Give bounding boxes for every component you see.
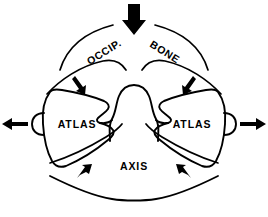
left-lateral-displacement-arrow	[2, 118, 28, 130]
atlas-right-label: ATLAS	[173, 118, 212, 130]
right-atlantoaxial-force-arrow	[176, 164, 191, 178]
jefferson-fracture-diagram: OCCIP. BONE ATLAS ATLAS AXIS	[0, 0, 268, 217]
axis-vertebra-group	[50, 85, 218, 201]
axial-compression-arrow	[122, 4, 146, 35]
atlas-left-label: ATLAS	[58, 118, 97, 130]
anatomy-illustration: OCCIP. BONE ATLAS ATLAS AXIS	[0, 0, 268, 217]
odontoid-process-dens-outline	[110, 85, 159, 141]
occipital-bone-group	[47, 25, 221, 94]
axis-label: AXIS	[120, 160, 148, 172]
right-lateral-displacement-arrow	[240, 118, 266, 130]
left-atlantoaxial-force-arrow	[77, 164, 92, 178]
axis-inferior-body-curve	[50, 176, 218, 201]
